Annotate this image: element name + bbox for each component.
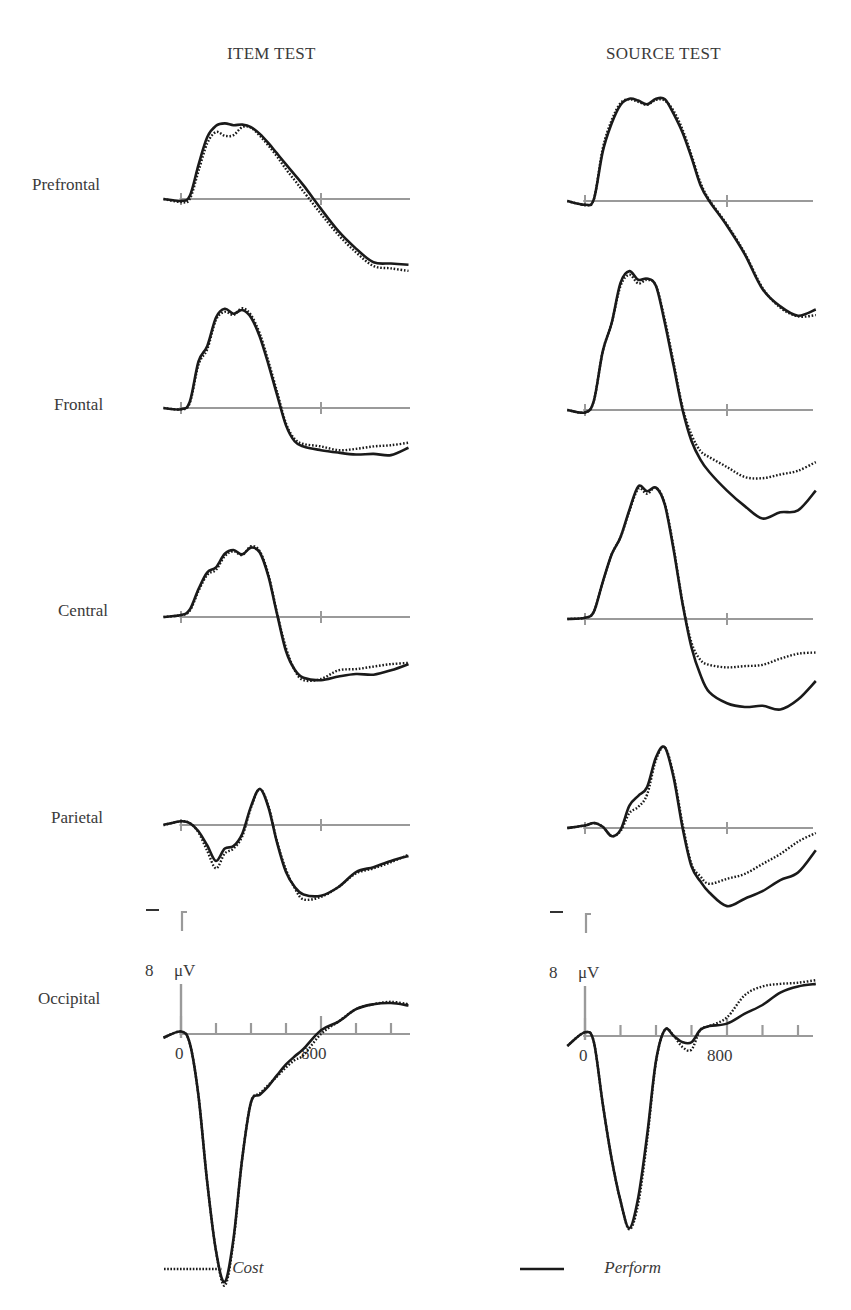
cost-trace: [567, 487, 816, 667]
perform-trace: [164, 309, 409, 456]
panel-source-test-central: [567, 486, 816, 710]
perform-trace: [164, 123, 409, 264]
cost-trace: [164, 546, 409, 681]
panel-item-test-prefrontal: [164, 123, 411, 271]
dotted-line-icon: [164, 1263, 222, 1275]
cost-trace: [567, 99, 816, 316]
panel-source-test-parietal: [567, 746, 816, 906]
calibration-unit-label: μV: [578, 963, 600, 982]
calibration-bracket: [182, 912, 187, 931]
x-tick-label-800: 800: [707, 1046, 733, 1065]
perform-trace: [567, 746, 816, 906]
panel-item-test-central: [164, 546, 411, 681]
panel-source-test-occipital: 08008μV: [549, 912, 816, 1229]
perform-trace: [567, 984, 816, 1228]
x-tick-label-0: 0: [175, 1044, 184, 1063]
erp-waveform-chart: 08008μV08008μV: [0, 0, 851, 1310]
perform-trace: [567, 486, 816, 710]
calibration-value-label: 8: [549, 963, 558, 982]
perform-trace: [164, 789, 409, 896]
perform-trace: [164, 1003, 409, 1282]
panel-item-test-frontal: [164, 308, 411, 455]
legend-item-perform: Perform: [520, 1258, 661, 1278]
legend-label-perform: Perform: [604, 1258, 661, 1277]
legend-label-cost: Cost: [232, 1258, 263, 1277]
panel-item-test-occipital: 08008μV: [145, 910, 410, 1286]
solid-line-icon: [520, 1263, 564, 1275]
perform-trace: [567, 271, 816, 519]
calibration-unit-label: μV: [174, 961, 196, 980]
perform-trace: [567, 98, 816, 316]
calibration-value-label: 8: [145, 961, 154, 980]
panel-source-test-frontal: [567, 271, 816, 519]
calibration-bracket: [586, 914, 591, 933]
cost-trace: [164, 308, 409, 450]
x-tick-label-0: 0: [579, 1046, 588, 1065]
panel-source-test-prefrontal: [567, 98, 816, 317]
perform-trace: [164, 548, 409, 681]
cost-trace: [567, 980, 816, 1229]
legend-item-cost: Cost: [164, 1258, 263, 1278]
cost-trace: [164, 1002, 409, 1286]
cost-trace: [567, 747, 816, 884]
panel-item-test-parietal: [164, 789, 411, 900]
cost-trace: [164, 789, 409, 900]
